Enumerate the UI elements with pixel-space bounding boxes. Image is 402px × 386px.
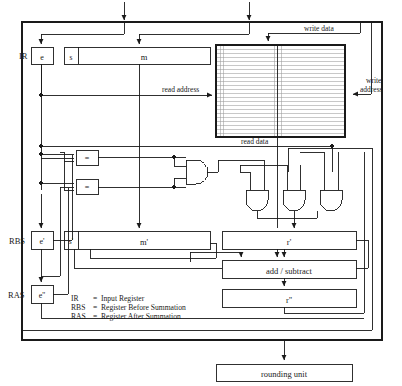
and-gate-upper	[186, 160, 208, 184]
result-register-label: r'	[287, 237, 292, 247]
wire-and-upper-in-a	[174, 157, 186, 166]
junction-and-upper-a	[172, 155, 175, 158]
legend-eq-0: =	[93, 294, 97, 303]
wire-cmp-stub	[60, 152, 64, 161]
comparator-upper-label: =	[85, 154, 90, 163]
diagram-canvas: IR e s m read address write data write a…	[0, 0, 402, 386]
wire-gate-route-a	[218, 160, 264, 172]
rbs-sign-label: s'	[69, 237, 74, 246]
rbs-tag: RBS	[9, 236, 25, 246]
legend-eq-2: =	[93, 312, 97, 321]
and-gate-row-1	[246, 190, 268, 211]
wire-and-upper-in-b	[174, 178, 186, 187]
wire-rbs-e-feedback	[53, 155, 72, 240]
add-subtract-label: add / subtract	[266, 266, 312, 276]
write-address-label-line2: address	[360, 85, 383, 94]
legend-meaning-1: Register Before Summation	[101, 303, 186, 312]
wire-input-to-ir-m	[139, 22, 249, 44]
wire-input-to-ir-e	[41, 22, 124, 44]
read-data-label: read data	[241, 137, 269, 146]
legend-abbr-1: RBS	[71, 303, 85, 312]
junction-and-upper-b	[172, 185, 175, 188]
ir-mantissa-label: m	[141, 52, 148, 62]
ir-mantissa-box	[64, 47, 210, 64]
and-gate-row-2	[283, 190, 305, 211]
rbs-exponent-label: e'	[40, 237, 46, 246]
legend: IR = Input Register RBS = Register Befor…	[71, 294, 186, 321]
wire-rprime-return	[356, 240, 368, 268]
legend-eq-1: =	[93, 303, 97, 312]
rbs-mantissa-box	[64, 231, 210, 249]
comparator-lower-label: =	[85, 183, 90, 192]
ir-exponent-label: e	[40, 53, 44, 62]
legend-meaning-0: Input Register	[101, 294, 145, 303]
ras-tag: RAS	[8, 290, 25, 300]
wire-gate-route-e	[300, 152, 324, 172]
wire-and-row-bus	[257, 211, 317, 218]
wire-gate-route-c	[240, 165, 250, 172]
junction-cmp-upper	[39, 152, 42, 155]
ras-exponent-label: e''	[39, 291, 46, 300]
junction-read-data-left	[39, 144, 42, 147]
rounding-unit-label: rounding unit	[261, 369, 308, 379]
write-address-label-line1: write	[366, 76, 382, 85]
memory-array-outline	[216, 45, 345, 137]
result-register-2-label: r''	[286, 295, 292, 305]
datapath-diagram: IR e s m read address write data write a…	[0, 0, 402, 386]
read-address-label: read address	[162, 85, 199, 94]
legend-meaning-2: Register After Summation	[101, 312, 181, 321]
write-data-label: write data	[304, 24, 334, 33]
rbs-mantissa-label: m'	[140, 237, 149, 247]
and-gate-row-3	[320, 190, 342, 211]
ir-sign-label: s	[70, 53, 73, 62]
legend-abbr-0: IR	[71, 294, 80, 303]
legend-abbr-2: RAS	[71, 312, 86, 321]
ir-tag: IR	[19, 51, 28, 61]
